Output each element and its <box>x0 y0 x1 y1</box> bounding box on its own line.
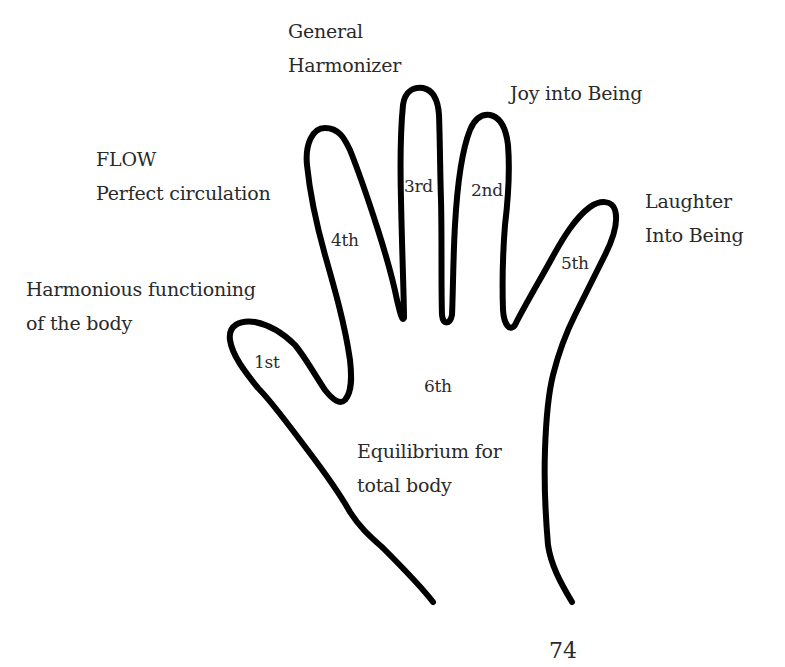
label-2nd-line-1: Joy into Being <box>510 76 642 110</box>
label-1st-line-1: Harmonious functioning <box>26 272 256 306</box>
finger-label-4th: 4th <box>331 230 359 250</box>
label-2nd-description: Joy into Being <box>510 76 642 110</box>
label-4th-description: FLOW Perfect circulation <box>96 142 271 210</box>
hand-outline-left-edge <box>230 88 616 602</box>
finger-label-2nd: 2nd <box>471 180 503 200</box>
label-3rd-line-2: Harmonizer <box>288 48 401 82</box>
label-4th-line-2: Perfect circulation <box>96 176 271 210</box>
label-1st-description: Harmonious functioning of the body <box>26 272 256 340</box>
label-6th-line-2: total body <box>357 468 502 502</box>
label-6th-description: Equilibrium for total body <box>357 434 502 502</box>
label-6th-line-1: Equilibrium for <box>357 434 502 468</box>
label-5th-description: Laughter Into Being <box>645 184 744 252</box>
label-4th-line-1: FLOW <box>96 142 271 176</box>
page-number: 74 <box>549 638 577 664</box>
finger-label-1st: 1st <box>254 352 279 372</box>
label-5th-line-2: Into Being <box>645 218 744 252</box>
label-1st-line-2: of the body <box>26 306 256 340</box>
label-3rd-description: General Harmonizer <box>288 14 401 82</box>
label-5th-line-1: Laughter <box>645 184 744 218</box>
finger-label-5th: 5th <box>561 253 589 273</box>
label-3rd-line-1: General <box>288 14 401 48</box>
finger-label-6th: 6th <box>424 376 452 396</box>
finger-label-3rd: 3rd <box>404 176 433 196</box>
